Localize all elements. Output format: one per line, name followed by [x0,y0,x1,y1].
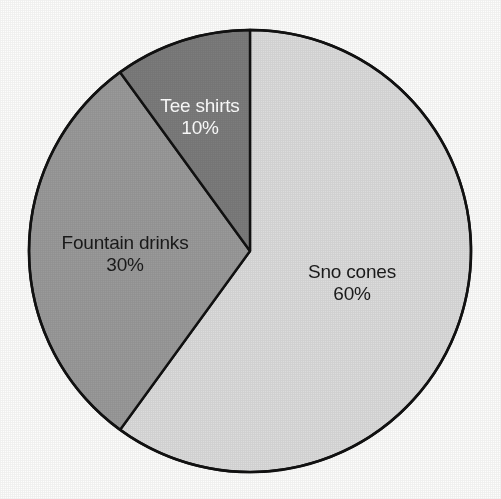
pie-chart: Sno cones 60% Fountain drinks 30% Tee sh… [0,0,501,499]
pie-chart-svg [0,0,501,499]
